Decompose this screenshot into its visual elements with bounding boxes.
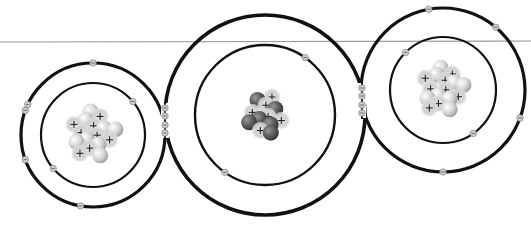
electron <box>162 105 168 111</box>
neutron <box>442 101 458 117</box>
diagram-canvas <box>0 0 531 230</box>
electron <box>359 102 365 108</box>
electron <box>222 169 228 175</box>
atom-right-oxygen <box>361 6 525 175</box>
electron <box>302 54 308 60</box>
electron <box>359 110 365 116</box>
electron <box>25 101 31 107</box>
electron <box>22 156 28 162</box>
electron <box>517 115 523 121</box>
electron <box>162 130 168 136</box>
electron <box>50 165 56 171</box>
electron <box>162 113 168 119</box>
electron <box>402 49 408 55</box>
molecule-diagram <box>0 0 531 230</box>
atom-left-oxygen <box>21 60 165 209</box>
atom-center-carbon <box>165 15 365 215</box>
electron <box>77 203 83 209</box>
baseline <box>0 41 531 42</box>
neutron <box>92 147 108 163</box>
electron <box>440 169 446 175</box>
shared-electron-pair-2 <box>358 82 366 119</box>
electron <box>162 122 168 128</box>
nucleus <box>417 60 472 117</box>
nucleus <box>65 104 123 164</box>
neutron <box>263 125 279 141</box>
electron <box>470 130 476 136</box>
proton <box>71 145 88 162</box>
nucleus <box>241 88 290 140</box>
shared-electron-pair-1 <box>161 102 169 139</box>
electron <box>130 98 136 104</box>
proton <box>421 99 438 116</box>
electron <box>90 60 96 66</box>
electron <box>493 24 499 30</box>
electron <box>359 93 365 99</box>
electron <box>359 85 365 91</box>
electron <box>426 6 432 12</box>
